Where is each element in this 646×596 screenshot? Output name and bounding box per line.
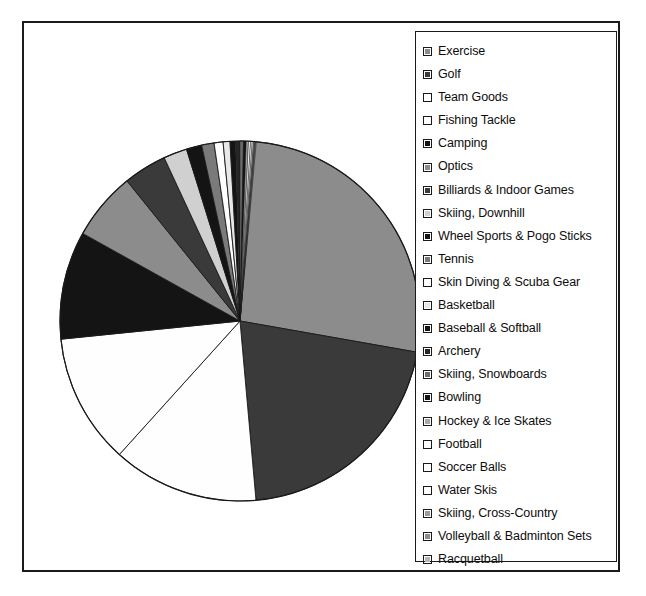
legend-item[interactable]: Bowling — [423, 386, 616, 409]
pie-chart — [54, 135, 426, 507]
legend-item-label: Billiards & Indoor Games — [438, 179, 574, 202]
legend-item[interactable]: Hockey & Ice Skates — [423, 410, 616, 433]
legend-item-label: Water Skis — [438, 479, 497, 502]
legend-swatch-icon — [423, 139, 432, 148]
legend-item[interactable]: Fishing Tackle — [423, 109, 616, 132]
legend-swatch-icon — [423, 324, 432, 333]
legend-item[interactable]: Skiing, Cross-Country — [423, 502, 616, 525]
legend-item[interactable]: Soccer Balls — [423, 456, 616, 479]
pie-slice[interactable] — [240, 321, 417, 500]
legend-swatch-icon — [423, 70, 432, 79]
legend-item-label: Volleyball & Badminton Sets — [438, 525, 592, 548]
legend-item-label: Golf — [438, 63, 461, 86]
legend-item[interactable]: Baseball & Softball — [423, 317, 616, 340]
pie-slice[interactable] — [240, 141, 420, 352]
legend-item[interactable]: Golf — [423, 63, 616, 86]
legend-swatch-icon — [423, 555, 432, 564]
legend-swatch-icon — [423, 532, 432, 541]
legend-item-label: Skiing, Cross-Country — [438, 502, 557, 525]
pie-chart-plot-area — [54, 135, 426, 507]
legend-swatch-icon — [423, 486, 432, 495]
legend-item-label: Basketball — [438, 294, 495, 317]
legend-item-label: Tennis — [438, 248, 474, 271]
legend-item-label: Camping — [438, 132, 487, 155]
legend-swatch-icon — [423, 255, 432, 264]
legend-swatch-icon — [423, 509, 432, 518]
legend-item[interactable]: Camping — [423, 132, 616, 155]
legend-item-label: Archery — [438, 340, 480, 363]
legend-swatch-icon — [423, 93, 432, 102]
legend-item[interactable]: Basketball — [423, 294, 616, 317]
legend-item[interactable]: Water Skis — [423, 479, 616, 502]
legend-item[interactable]: Racquetball — [423, 548, 616, 571]
legend-swatch-icon — [423, 186, 432, 195]
legend-item[interactable]: Skiing, Snowboards — [423, 363, 616, 386]
legend-item[interactable]: Exercise — [423, 40, 616, 63]
legend-item[interactable]: Volleyball & Badminton Sets — [423, 525, 616, 548]
legend-swatch-icon — [423, 232, 432, 241]
legend-swatch-icon — [423, 440, 432, 449]
legend-item-label: Hockey & Ice Skates — [438, 410, 551, 433]
legend-item-label: Racquetball — [438, 548, 503, 571]
legend-item-label: Soccer Balls — [438, 456, 506, 479]
legend-item[interactable]: Archery — [423, 340, 616, 363]
legend-item[interactable]: Tennis — [423, 248, 616, 271]
chart-legend: ExerciseGolfTeam GoodsFishing TackleCamp… — [415, 31, 617, 562]
legend-swatch-icon — [423, 163, 432, 172]
legend-item[interactable]: Skiing, Downhill — [423, 202, 616, 225]
legend-swatch-icon — [423, 463, 432, 472]
legend-item[interactable]: Team Goods — [423, 86, 616, 109]
legend-swatch-icon — [423, 393, 432, 402]
legend-item[interactable]: Football — [423, 433, 616, 456]
legend-item[interactable]: Billiards & Indoor Games — [423, 179, 616, 202]
chart-frame: ExerciseGolfTeam GoodsFishing TackleCamp… — [22, 21, 620, 572]
legend-item[interactable]: Optics — [423, 155, 616, 178]
legend-swatch-icon — [423, 209, 432, 218]
legend-item-label: Baseball & Softball — [438, 317, 541, 340]
pie-slice-group — [60, 141, 420, 501]
legend-item-label: Football — [438, 433, 482, 456]
legend-swatch-icon — [423, 47, 432, 56]
legend-item-label: Skin Diving & Scuba Gear — [438, 271, 580, 294]
legend-item-label: Fishing Tackle — [438, 109, 516, 132]
legend-item[interactable]: Skin Diving & Scuba Gear — [423, 271, 616, 294]
legend-item-label: Skiing, Downhill — [438, 202, 525, 225]
legend-item-label: Wheel Sports & Pogo Sticks — [438, 225, 592, 248]
legend-swatch-icon — [423, 370, 432, 379]
legend-item[interactable]: Wheel Sports & Pogo Sticks — [423, 225, 616, 248]
legend-item-label: Optics — [438, 155, 473, 178]
legend-item-label: Bowling — [438, 386, 481, 409]
legend-swatch-icon — [423, 417, 432, 426]
legend-swatch-icon — [423, 301, 432, 310]
legend-item-label: Exercise — [438, 40, 485, 63]
legend-swatch-icon — [423, 278, 432, 287]
legend-item-label: Team Goods — [438, 86, 508, 109]
legend-swatch-icon — [423, 347, 432, 356]
legend-item-label: Skiing, Snowboards — [438, 363, 547, 386]
legend-swatch-icon — [423, 116, 432, 125]
